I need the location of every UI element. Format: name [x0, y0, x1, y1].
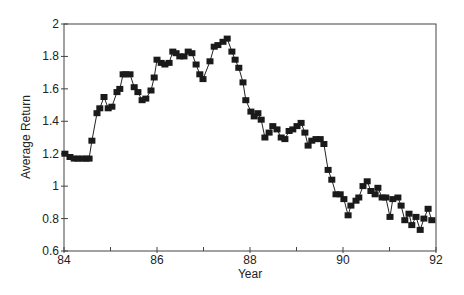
y-tick-label: 1.8 — [42, 49, 59, 63]
data-point-marker — [258, 117, 265, 123]
x-tick-label: 86 — [150, 253, 164, 267]
y-tick-label: 1 — [52, 179, 59, 193]
data-point-marker — [387, 214, 394, 220]
y-tick-label: 2 — [52, 17, 59, 31]
data-point-marker — [254, 110, 261, 116]
x-tick-label: 84 — [57, 253, 71, 267]
data-point-marker — [320, 141, 327, 147]
data-point-marker — [266, 130, 273, 136]
x-axis: 8486889092 — [57, 247, 443, 267]
data-point-marker — [274, 126, 281, 132]
x-tick-label: 92 — [429, 253, 443, 267]
y-tick-label: 1.2 — [42, 147, 59, 161]
data-point-marker — [207, 58, 214, 64]
y-axis-title: Average Return — [19, 95, 33, 179]
data-point-marker — [232, 57, 239, 63]
data-point-marker — [240, 79, 247, 85]
data-point-marker — [345, 212, 352, 218]
data-point-marker — [425, 206, 432, 212]
data-point-marker — [428, 217, 435, 223]
data-point-marker — [228, 49, 235, 55]
data-point-marker — [340, 196, 347, 202]
data-point-marker — [86, 156, 93, 162]
series-markers — [61, 36, 435, 233]
data-point-marker — [134, 89, 141, 95]
data-point-marker — [398, 203, 405, 209]
data-point-marker — [88, 138, 95, 144]
data-point-marker — [328, 177, 335, 183]
data-point-marker — [281, 136, 288, 142]
data-point-marker — [101, 94, 108, 100]
data-point-marker — [364, 178, 371, 184]
data-point-marker — [406, 211, 413, 217]
data-point-marker — [413, 214, 420, 220]
data-point-marker — [224, 36, 231, 42]
data-point-marker — [417, 227, 424, 233]
data-point-marker — [193, 62, 200, 68]
data-point-marker — [382, 195, 389, 201]
data-point-marker — [298, 120, 305, 126]
line-chart: 0.60.811.21.41.61.82 8486889092 Year Ave… — [0, 0, 464, 295]
data-point-marker — [188, 50, 195, 56]
data-point-marker — [374, 185, 381, 191]
data-point-marker — [355, 195, 362, 201]
y-tick-label: 1.4 — [42, 114, 59, 128]
data-point-marker — [372, 191, 379, 197]
data-point-marker — [200, 76, 207, 82]
data-point-marker — [235, 65, 242, 71]
y-tick-label: 0.8 — [42, 212, 59, 226]
x-tick-label: 88 — [243, 253, 257, 267]
data-point-marker — [127, 71, 134, 77]
x-axis-title: Year — [238, 267, 262, 281]
data-point-marker — [148, 88, 155, 94]
data-point-marker — [408, 222, 415, 228]
data-point-marker — [142, 96, 149, 102]
data-point-marker — [166, 60, 173, 66]
plot-frame — [64, 24, 436, 251]
data-point-marker — [420, 216, 427, 222]
data-point-marker — [401, 217, 408, 223]
data-point-marker — [301, 130, 308, 136]
data-point-marker — [116, 86, 123, 92]
series-line — [65, 39, 432, 230]
data-point-marker — [96, 105, 103, 111]
data-point-marker — [108, 104, 115, 110]
x-tick-label: 90 — [336, 253, 350, 267]
data-point-marker — [394, 195, 401, 201]
data-point-marker — [151, 75, 158, 81]
y-tick-label: 1.6 — [42, 82, 59, 96]
data-point-marker — [325, 167, 332, 173]
data-point-marker — [242, 97, 249, 103]
